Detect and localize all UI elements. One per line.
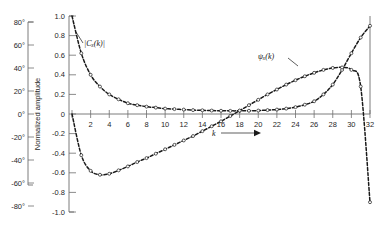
data-point-marker: [322, 93, 325, 96]
amplitude-tick-label: -0.6: [52, 168, 65, 177]
series-magnitude: [72, 16, 372, 112]
data-point-marker: [266, 93, 269, 96]
data-point-marker: [80, 52, 83, 55]
data-point-marker: [266, 109, 269, 112]
data-point-marker: [80, 154, 83, 157]
k-tick-label: 20: [254, 120, 262, 129]
data-point-marker: [247, 104, 250, 107]
data-point-marker: [369, 24, 372, 27]
k-tick-label: 2: [89, 120, 93, 129]
data-point-marker: [331, 83, 334, 86]
k-tick-label: 10: [161, 120, 169, 129]
data-point-marker: [350, 52, 353, 55]
data-point-marker: [173, 108, 176, 111]
amplitude-tick-label: -1.0: [52, 208, 65, 217]
k-tick-label: 4: [107, 120, 111, 129]
figure-container: -80°-60°-40°-20°0°20°40°60°80° -1.0-0.8-…: [0, 0, 389, 226]
data-point-marker: [210, 109, 213, 112]
data-point-marker: [220, 120, 223, 123]
data-point-marker: [294, 79, 297, 82]
normalized-amplitude-axis: -1.0-0.8-0.6-0.4-0.200.20.40.60.81.0 Nor…: [33, 12, 76, 217]
degrees-tick-label: -80°: [11, 202, 25, 211]
amplitude-tick-labels: -1.0-0.8-0.6-0.4-0.200.20.40.60.81.0: [52, 12, 65, 217]
data-point-marker: [98, 85, 101, 88]
data-point-marker: [164, 107, 167, 110]
x-axis-title: k: [212, 129, 216, 138]
data-point-marker: [229, 109, 232, 112]
data-point-marker: [350, 68, 353, 71]
k-tick-label: 18: [235, 120, 243, 129]
amplitude-tick-label: 0.4: [55, 70, 65, 79]
k-tick-label: 30: [347, 120, 355, 129]
data-point-marker: [275, 108, 278, 111]
data-point-marker: [331, 66, 334, 69]
degrees-tick-labels: -80°-60°-40°-20°0°20°40°60°80°: [11, 18, 25, 211]
data-point-marker: [126, 102, 129, 105]
k-tick-label: 8: [144, 120, 148, 129]
data-point-marker: [145, 157, 148, 160]
data-point-marker: [257, 109, 260, 112]
data-point-marker: [98, 173, 101, 176]
data-point-marker: [313, 100, 316, 103]
data-point-marker: [229, 114, 232, 117]
amplitude-tick-label: -0.8: [52, 188, 65, 197]
phase-leader-line: [288, 58, 298, 66]
data-point-marker: [238, 109, 241, 112]
k-tick-label: 6: [126, 120, 130, 129]
amplitude-tick-label: 0.6: [55, 51, 65, 60]
data-point-marker: [117, 98, 120, 101]
k-tick-label: 22: [273, 120, 281, 129]
data-point-marker: [257, 98, 260, 101]
degrees-tick-label: 0°: [18, 110, 25, 119]
k-tick-label: 32: [366, 120, 374, 129]
data-point-marker: [201, 109, 204, 112]
amplitude-tick-label: 0.8: [55, 31, 65, 40]
degrees-tick-label: 80°: [14, 18, 25, 27]
k-tick-label: 26: [310, 120, 318, 129]
data-point-marker: [359, 36, 362, 39]
phase-markers: [80, 66, 372, 204]
magnitude-annotation: |Cₓ(k)|: [76, 32, 105, 48]
data-point-marker: [164, 148, 167, 151]
magnitude-curve: [72, 16, 370, 111]
data-point-marker: [192, 135, 195, 138]
degrees-tick-label: -60°: [11, 179, 25, 188]
magnitude-series-label: |Cₓ(k)|: [84, 39, 105, 48]
data-point-marker: [303, 75, 306, 78]
phase-annotation: ψₓ(k): [258, 52, 298, 66]
data-point-marker: [154, 152, 157, 155]
data-point-marker: [322, 68, 325, 71]
data-point-marker: [154, 106, 157, 109]
data-point-marker: [313, 71, 316, 74]
data-point-marker: [126, 165, 129, 168]
data-point-marker: [108, 172, 111, 175]
data-point-marker: [275, 88, 278, 91]
data-point-marker: [108, 93, 111, 96]
amplitude-tick-label: 0.2: [55, 90, 65, 99]
data-point-marker: [201, 130, 204, 133]
degrees-axis: -80°-60°-40°-20°0°20°40°60°80°: [11, 18, 34, 211]
degrees-tick-label: 20°: [14, 87, 25, 96]
data-point-marker: [182, 108, 185, 111]
signal-correlation-chart: -80°-60°-40°-20°0°20°40°60°80° -1.0-0.8-…: [0, 0, 389, 226]
k-tick-label: 12: [180, 120, 188, 129]
data-point-marker: [285, 83, 288, 86]
data-point-marker: [294, 106, 297, 109]
phase-curve: [72, 67, 370, 202]
data-point-marker: [182, 139, 185, 142]
degrees-tick-label: -20°: [11, 133, 25, 142]
phase-series-label: ψₓ(k): [258, 52, 274, 61]
data-point-marker: [136, 161, 139, 164]
k-tick-label: 14: [198, 120, 206, 129]
k-tick-labels: 2468101214161820222426283032: [89, 120, 375, 129]
data-point-marker: [145, 105, 148, 108]
data-point-marker: [285, 107, 288, 110]
data-point-marker: [220, 109, 223, 112]
data-point-marker: [192, 109, 195, 112]
degrees-tick-label: -40°: [11, 156, 25, 165]
k-tick-label: 28: [329, 120, 337, 129]
amplitude-tick-label: -0.4: [52, 149, 65, 158]
degrees-tick-label: 40°: [14, 64, 25, 73]
data-point-marker: [136, 104, 139, 107]
degrees-tick-label: 60°: [14, 41, 25, 50]
